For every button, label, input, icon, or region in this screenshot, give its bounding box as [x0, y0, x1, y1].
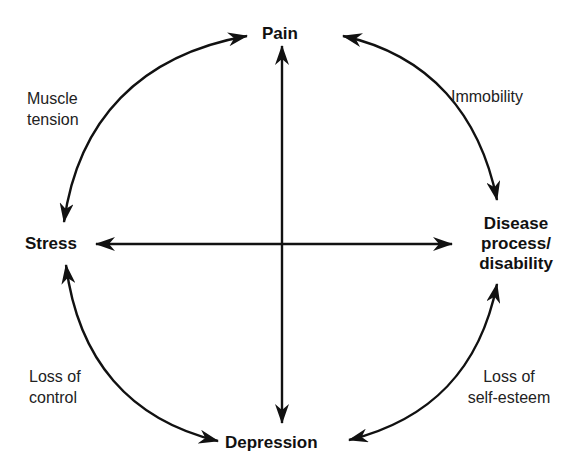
edge-label-muscle-tension: Muscle tension	[27, 88, 79, 130]
arrow-disease-depression	[349, 284, 497, 440]
node-disease-line-3: disability	[456, 254, 576, 274]
edge-label-muscle-line-2: tension	[27, 109, 79, 130]
edge-label-control-line-2: control	[29, 387, 81, 408]
node-disease-line-1: Disease	[456, 214, 576, 234]
edge-label-immobility: Immobility	[451, 86, 523, 107]
edge-label-selfesteem-line-2: self-esteem	[450, 387, 568, 408]
node-pain: Pain	[262, 24, 298, 44]
node-depression: Depression	[225, 433, 318, 453]
edge-label-loss-of-control: Loss of control	[29, 366, 81, 408]
node-pain-label: Pain	[262, 24, 298, 43]
arrow-pain-disease	[343, 36, 497, 200]
edge-label-immobility-text: Immobility	[451, 88, 523, 105]
edge-label-loss-of-self-esteem: Loss of self-esteem	[450, 366, 568, 408]
node-disease-process-disability: Disease process/ disability	[456, 214, 576, 274]
edge-label-muscle-line-1: Muscle	[27, 88, 79, 109]
node-disease-line-2: process/	[456, 234, 576, 254]
arrow-stress-depression	[66, 265, 218, 441]
node-stress: Stress	[25, 234, 77, 254]
arrow-pain-stress	[64, 36, 247, 222]
node-depression-label: Depression	[225, 433, 318, 452]
edge-label-control-line-1: Loss of	[29, 366, 81, 387]
edge-label-selfesteem-line-1: Loss of	[450, 366, 568, 387]
node-stress-label: Stress	[25, 234, 77, 253]
